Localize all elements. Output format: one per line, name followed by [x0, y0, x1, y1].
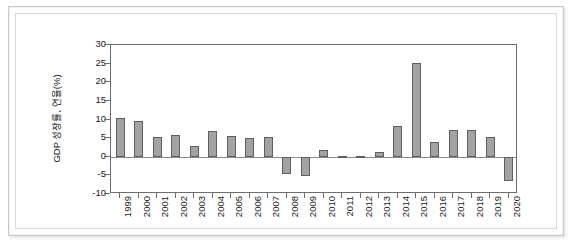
x-axis-tick-labels: 1999200020012002200320042005200620072008…	[110, 198, 517, 240]
bar	[171, 135, 180, 157]
x-axis-tick-label: 2015	[419, 196, 429, 238]
x-axis-tick-label: 2004	[216, 196, 226, 238]
x-axis-tick-label: 2017	[456, 196, 466, 238]
x-axis-tick-label: 2005	[234, 196, 244, 238]
bar	[208, 131, 217, 156]
bar	[134, 121, 143, 156]
y-axis-tick-label: 5	[80, 132, 106, 142]
bar	[486, 137, 495, 157]
x-axis-tick-label: 2008	[290, 196, 300, 238]
bar	[190, 146, 199, 157]
bar-chart: GDP 성장률, 연율(%) 302520151050-5-10 1999200…	[0, 0, 580, 252]
x-axis-tick-label: 2000	[142, 196, 152, 238]
bar	[338, 156, 347, 158]
x-axis-tick-label: 2014	[401, 196, 411, 238]
y-axis-tick-label: 10	[80, 114, 106, 124]
bar	[116, 118, 125, 157]
bar	[227, 136, 236, 157]
x-axis-tick-label: 1999	[123, 196, 133, 238]
x-axis-tick-label: 2013	[382, 196, 392, 238]
bar	[153, 137, 162, 156]
bar	[356, 156, 365, 158]
bar	[412, 63, 421, 157]
x-axis-tick-label: 2012	[364, 196, 374, 238]
x-axis-tick-label: 2019	[493, 196, 503, 238]
bar	[301, 157, 310, 177]
bar	[449, 130, 458, 157]
x-axis-tick-label: 2002	[179, 196, 189, 238]
bars-container	[111, 45, 516, 192]
x-axis-tick-label: 2010	[327, 196, 337, 238]
y-axis-tick-labels: 302520151050-5-10	[78, 44, 106, 193]
x-axis-tick-label: 2011	[345, 196, 355, 238]
y-axis-title: GDP 성장률, 연율(%)	[50, 44, 64, 193]
y-axis-tick-label: -5	[80, 169, 106, 179]
bar	[467, 130, 476, 157]
bar	[245, 138, 254, 157]
y-axis-tick-label: 15	[80, 95, 106, 105]
bar	[375, 152, 384, 157]
bar	[393, 126, 402, 157]
bar	[504, 157, 513, 182]
x-axis-tick-label: 2020	[512, 196, 522, 238]
bar	[430, 142, 439, 157]
y-axis-tick-label: 25	[80, 58, 106, 68]
x-axis-tick-label: 2007	[271, 196, 281, 238]
plot-area	[110, 44, 517, 193]
x-axis-tick-label: 2016	[438, 196, 448, 238]
x-axis-tick-label: 2009	[308, 196, 318, 238]
x-axis-tick-label: 2003	[197, 196, 207, 238]
bar	[282, 157, 291, 175]
y-axis-tick-label: 20	[80, 76, 106, 86]
bar	[319, 150, 328, 156]
x-axis-tick-label: 2006	[253, 196, 263, 238]
x-axis-tick-label: 2018	[475, 196, 485, 238]
x-axis-tick-label: 2001	[160, 196, 170, 238]
y-axis-tick-label: 30	[80, 39, 106, 49]
y-axis-tick-label: -10	[80, 188, 106, 198]
y-axis-tick-label: 0	[80, 151, 106, 161]
bar	[264, 137, 273, 156]
